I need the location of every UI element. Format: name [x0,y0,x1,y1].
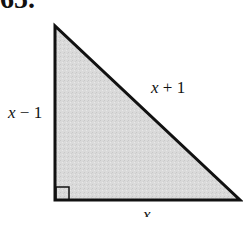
hypotenuse-variable: x [151,78,159,97]
triangle-shape [55,26,240,200]
base-label: x [143,206,151,217]
left-leg-variable: x [8,103,16,122]
hypotenuse-expression: + 1 [159,78,186,97]
hypotenuse-label: x + 1 [151,79,185,96]
left-leg-expression: − 1 [16,103,43,122]
left-leg-label: x − 1 [8,104,42,121]
base-variable: x [143,205,151,217]
